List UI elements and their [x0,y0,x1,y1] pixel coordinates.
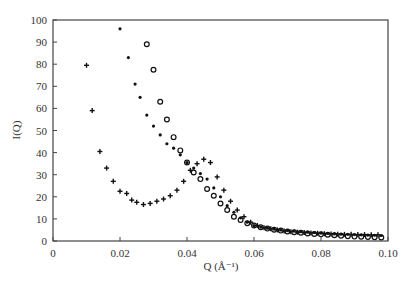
x-axis-ticks: 00.020.040.060.080.10 [50,237,398,259]
plus-marker [168,193,173,198]
y-tick-label: 80 [36,58,48,70]
circle-marker [218,201,223,206]
y-tick-label: 40 [36,147,48,159]
dot-marker [139,96,142,99]
dot-marker [118,27,121,30]
plot-frame [53,20,388,241]
plus-marker [90,108,95,113]
plus-marker [181,179,186,184]
y-tick-label: 60 [36,102,48,114]
scatter-chart: 0102030405060708090100 00.020.040.060.08… [0,0,416,291]
y-axis-label: I(Q) [10,120,23,139]
x-tick-label: 0.10 [378,247,398,259]
plus-marker [104,166,109,171]
plus-marker [215,174,220,179]
dot-marker [127,56,130,59]
circle-marker [171,135,176,140]
plus-marker [97,149,102,154]
dot-marker [165,142,168,145]
dot-marker [133,82,136,85]
plus-marker [195,161,200,166]
circle-marker [211,193,216,198]
y-tick-label: 10 [36,213,48,225]
plus-marker [118,189,123,194]
circle-marker [165,117,170,122]
circle-marker [191,170,196,175]
plus-marker [129,198,134,203]
circle-marker [205,187,210,192]
y-tick-label: 30 [36,169,48,181]
x-axis-label: Q (Å⁻¹) [203,260,238,273]
circle-marker [151,67,156,72]
plus-marker [161,197,166,202]
x-tick-label: 0.04 [177,247,197,259]
dot-marker [179,153,182,156]
dot-marker [145,113,148,116]
circle-marker [178,148,183,153]
dot-marker [206,178,209,181]
plus-marker [84,63,89,68]
dot-marker [226,204,229,207]
data-points [84,27,384,240]
dot-marker [252,224,255,227]
y-tick-label: 70 [36,80,48,92]
circle-marker [144,42,149,47]
x-tick-label: 0 [50,247,56,259]
plus-marker [154,199,159,204]
circle-marker [225,208,230,213]
x-tick-label: 0.02 [110,247,129,259]
plus-marker [221,188,226,193]
dot-marker [185,161,188,164]
dot-marker [219,195,222,198]
x-tick-label: 0.08 [311,247,331,259]
plus-marker [228,199,233,204]
plus-marker [141,202,146,207]
dot-marker [192,166,195,169]
plus-marker [235,208,240,213]
plus-marker [148,201,153,206]
dot-marker [259,225,262,228]
dot-marker [199,172,202,175]
dot-marker [212,186,215,189]
y-tick-label: 100 [31,14,48,26]
plus-marker [111,179,116,184]
plus-marker [201,157,206,162]
circle-marker [232,214,237,219]
plus-marker [134,200,139,205]
circle-marker [198,177,203,182]
circle-marker [158,99,163,104]
y-tick-label: 50 [36,125,48,137]
dot-marker [232,211,235,214]
plus-marker [124,191,129,196]
plus-marker [208,160,213,165]
y-tick-label: 0 [42,235,48,247]
plus-marker [174,188,179,193]
x-tick-label: 0.06 [244,247,264,259]
y-tick-label: 90 [36,36,48,48]
dot-marker [152,124,155,127]
dot-marker [159,133,162,136]
dot-marker [172,147,175,150]
y-tick-label: 20 [36,191,48,203]
